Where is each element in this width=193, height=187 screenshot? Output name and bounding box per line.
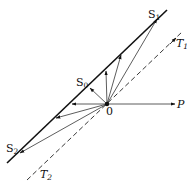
vector-s0 xyxy=(90,88,107,104)
vector-vertical xyxy=(106,71,107,104)
vectors xyxy=(20,19,176,153)
vector-s1 xyxy=(107,19,157,104)
t-line xyxy=(27,32,182,180)
label-s2: S2 xyxy=(6,142,19,156)
label-t2: T2 xyxy=(40,168,52,182)
label-t1: T1 xyxy=(176,37,188,51)
label-origin: 0 xyxy=(106,105,113,118)
vector-diagram: S1 T1 S0 0 P S2 T2 xyxy=(0,0,193,187)
label-p: P xyxy=(176,98,185,111)
label-s0: S0 xyxy=(76,76,89,90)
label-s1: S1 xyxy=(148,8,160,22)
